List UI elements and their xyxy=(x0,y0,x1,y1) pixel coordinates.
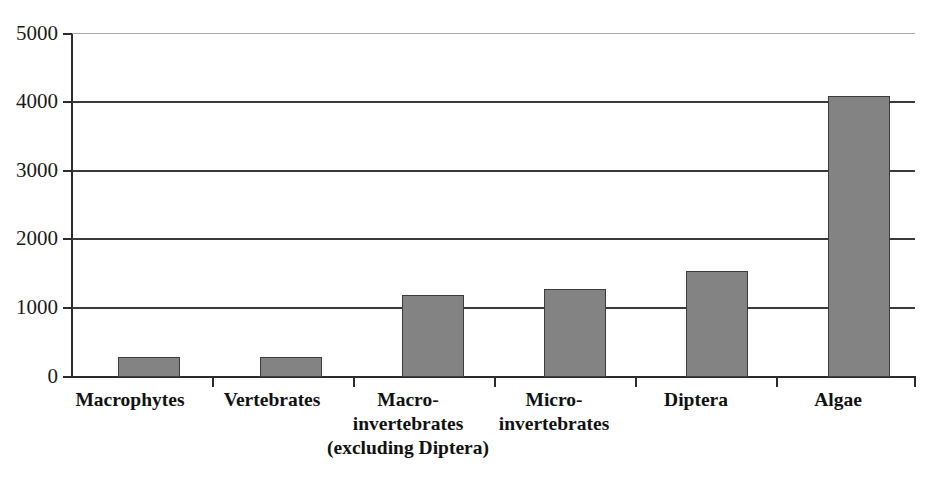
bar-macro-invertebrates xyxy=(402,295,464,377)
bar-macrophytes xyxy=(118,357,180,377)
bar-micro-invertebrates xyxy=(544,289,606,377)
gridline-2000 xyxy=(72,238,915,240)
category-label-micro-invertebrates: Micro- invertebrates xyxy=(472,388,636,436)
y-tick-label-5000: 5000 xyxy=(16,21,58,46)
y-tick-label-0: 0 xyxy=(48,364,59,389)
plot-area xyxy=(72,34,915,377)
category-label-macrophytes: Macrophytes xyxy=(48,388,212,412)
gridline-5000 xyxy=(72,33,915,34)
y-tick-label-4000: 4000 xyxy=(16,89,58,114)
bar-vertebrates xyxy=(260,357,322,377)
y-tick-label-1000: 1000 xyxy=(16,295,58,320)
gridline-3000 xyxy=(72,170,915,172)
x-tick-mark-5 xyxy=(776,378,778,387)
gridline-4000 xyxy=(72,101,915,103)
bar-diptera xyxy=(686,271,748,377)
x-tick-mark-1 xyxy=(212,378,214,387)
category-label-diptera: Diptera xyxy=(614,388,778,412)
category-label-algae: Algae xyxy=(756,388,920,412)
x-tick-mark-2 xyxy=(353,378,355,387)
bar-chart: 5000 4000 3000 2000 1000 0 Macrophytes V… xyxy=(0,0,932,487)
gridline-1000 xyxy=(72,307,915,309)
x-tick-mark-4 xyxy=(635,378,637,387)
x-tick-mark-6 xyxy=(914,378,916,387)
x-tick-mark-3 xyxy=(494,378,496,387)
category-label-macro-invertebrates: Macro- invertebrates (excluding Diptera) xyxy=(320,388,496,459)
y-tick-label-3000: 3000 xyxy=(16,158,58,183)
bar-algae xyxy=(828,96,890,377)
y-tick-label-2000: 2000 xyxy=(16,226,58,251)
